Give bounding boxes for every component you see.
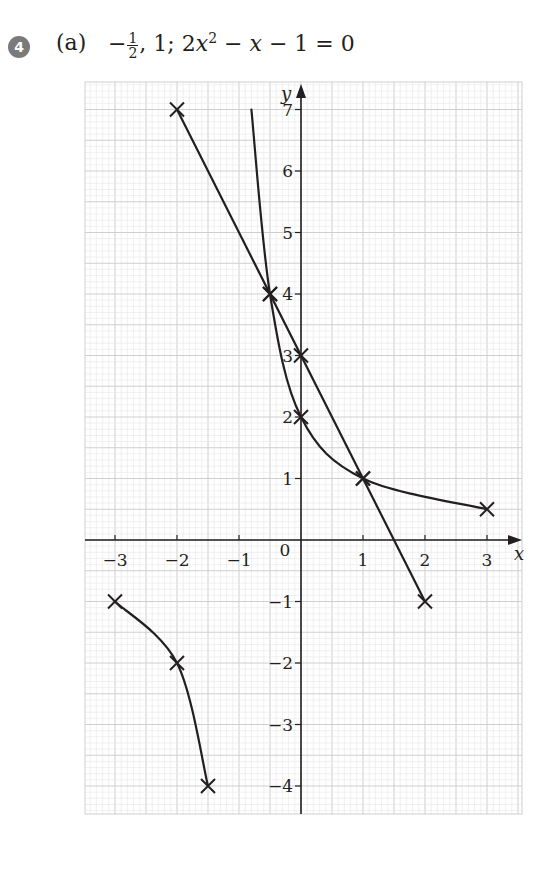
origin-label: 0	[280, 540, 291, 560]
axes: −3−2−1123−4−3−2−112345670xy	[85, 83, 524, 814]
y-tick-label: −1	[268, 592, 293, 612]
y-axis-label: y	[280, 83, 292, 104]
x-tick-label: 1	[358, 550, 369, 570]
y-tick-label: 6	[282, 161, 293, 181]
y-tick-label: 2	[282, 407, 293, 427]
x-tick-label: −2	[164, 550, 189, 570]
x-tick-label: 3	[482, 550, 493, 570]
x-axis-label: x	[514, 543, 524, 564]
y-tick-label: −4	[268, 776, 293, 796]
y-tick-label: −3	[268, 715, 293, 735]
graph-paper-grid	[85, 82, 522, 814]
x-tick-label: −1	[226, 550, 251, 570]
y-tick-label: −2	[268, 653, 293, 673]
x-tick-label: −3	[102, 550, 127, 570]
y-tick-label: 4	[282, 284, 293, 304]
y-tick-label: 1	[282, 469, 293, 489]
x-tick-label: 2	[420, 550, 431, 570]
graph: −3−2−1123−4−3−2−112345670xy	[0, 0, 550, 874]
y-tick-label: 5	[282, 223, 293, 243]
y-tick-label: 3	[282, 346, 293, 366]
